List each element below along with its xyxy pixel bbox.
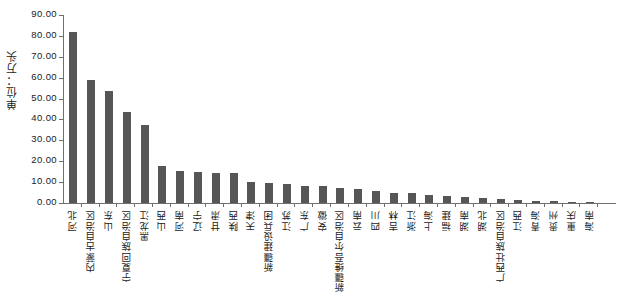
bar[interactable] bbox=[69, 32, 77, 203]
x-axis-tick-mark bbox=[508, 203, 509, 207]
x-axis-line bbox=[63, 203, 616, 204]
y-axis-tick-label: 30.00 bbox=[31, 133, 57, 144]
x-axis-tick-mark bbox=[455, 203, 456, 207]
bar[interactable] bbox=[550, 201, 558, 203]
bar[interactable] bbox=[532, 201, 540, 203]
plot-area: 0.0010.0020.0030.0040.0050.0060.0070.008… bbox=[63, 15, 615, 203]
y-axis-tick-mark bbox=[59, 15, 63, 16]
bar[interactable] bbox=[461, 197, 469, 203]
x-axis-tick-mark bbox=[152, 203, 153, 207]
y-axis-tick-label: 70.00 bbox=[31, 50, 57, 61]
x-axis-category-label: 重庆 bbox=[567, 210, 577, 231]
x-axis-category-label: 陕西 bbox=[229, 210, 239, 231]
bar[interactable] bbox=[301, 186, 309, 203]
y-axis-tick-mark bbox=[59, 119, 63, 120]
bar[interactable] bbox=[497, 199, 505, 203]
y-axis-tick-mark bbox=[59, 57, 63, 58]
x-axis-category-label: 河南 bbox=[175, 210, 185, 231]
x-axis-category-label: 湖北 bbox=[478, 210, 488, 231]
x-axis-category-label: 山西 bbox=[157, 210, 167, 231]
x-axis-tick-mark bbox=[205, 203, 206, 207]
x-axis-tick-mark bbox=[116, 203, 117, 207]
bar[interactable] bbox=[194, 172, 202, 203]
x-axis-category-label: 安徽 bbox=[318, 210, 328, 231]
y-axis-tick-mark bbox=[59, 203, 63, 204]
x-axis-category-label: 黑龙江 bbox=[140, 210, 150, 241]
y-axis-tick-mark bbox=[59, 161, 63, 162]
y-axis-tick-mark bbox=[59, 140, 63, 141]
x-axis-tick-mark bbox=[99, 203, 100, 207]
bar[interactable] bbox=[443, 196, 451, 203]
x-axis-category-label: 新疆建设兵团 bbox=[264, 210, 274, 272]
x-axis-category-label: 四川 bbox=[371, 210, 381, 231]
bar[interactable] bbox=[123, 112, 131, 203]
x-axis-category-label: 云南 bbox=[353, 210, 363, 231]
bar[interactable] bbox=[230, 173, 238, 203]
x-axis-category-label: 江苏 bbox=[282, 210, 292, 231]
x-axis-category-label: 新疆维吾尔自治区 bbox=[335, 210, 345, 292]
x-axis-category-label: 辽宁 bbox=[193, 210, 203, 231]
x-axis-tick-mark bbox=[259, 203, 260, 207]
x-axis-category-label: 江西 bbox=[513, 210, 523, 231]
bar[interactable] bbox=[479, 198, 487, 203]
x-axis-category-label: 山东 bbox=[104, 210, 114, 231]
bar[interactable] bbox=[568, 202, 576, 203]
bar[interactable] bbox=[158, 166, 166, 203]
bar[interactable] bbox=[283, 184, 291, 203]
x-axis-tick-mark bbox=[170, 203, 171, 207]
bar[interactable] bbox=[319, 186, 327, 203]
y-axis-tick-label: 90.00 bbox=[31, 8, 57, 19]
y-axis-tick-mark bbox=[59, 99, 63, 100]
x-axis-category-label: 天津 bbox=[246, 210, 256, 231]
x-axis-tick-mark bbox=[312, 203, 313, 207]
x-axis-category-label: 贵州 bbox=[549, 210, 559, 231]
x-axis-category-label: 上海 bbox=[424, 210, 434, 231]
x-axis-tick-mark bbox=[419, 203, 420, 207]
x-axis-category-label: 吉林 bbox=[389, 210, 399, 231]
x-axis-tick-mark bbox=[597, 203, 598, 207]
y-axis-tick-label: 80.00 bbox=[31, 29, 57, 40]
bar[interactable] bbox=[514, 200, 522, 203]
x-axis-tick-mark bbox=[241, 203, 242, 207]
y-axis-tick-label: 40.00 bbox=[31, 112, 57, 123]
y-axis-tick-label: 60.00 bbox=[31, 71, 57, 82]
bar[interactable] bbox=[105, 91, 113, 203]
x-axis-tick-mark bbox=[348, 203, 349, 207]
bar[interactable] bbox=[87, 80, 95, 203]
x-axis-category-label: 内蒙古自治区 bbox=[86, 210, 96, 272]
x-axis-tick-mark bbox=[544, 203, 545, 207]
x-axis-tick-mark bbox=[294, 203, 295, 207]
bar[interactable] bbox=[586, 202, 594, 203]
x-axis-tick-mark bbox=[223, 203, 224, 207]
x-axis-tick-mark bbox=[134, 203, 135, 207]
bar[interactable] bbox=[265, 183, 273, 203]
x-axis-category-label: 甘肃 bbox=[211, 210, 221, 231]
x-axis-tick-mark bbox=[437, 203, 438, 207]
x-axis-category-label: 广西壮族自治区 bbox=[496, 210, 506, 282]
bar[interactable] bbox=[390, 193, 398, 203]
bar[interactable] bbox=[408, 193, 416, 203]
bar[interactable] bbox=[247, 182, 255, 203]
x-axis-category-label: 浙江 bbox=[407, 210, 417, 231]
y-axis-title: 单位：万头 bbox=[4, 50, 22, 110]
bar[interactable] bbox=[372, 191, 380, 203]
x-axis-tick-mark bbox=[401, 203, 402, 207]
bar[interactable] bbox=[336, 188, 344, 203]
x-axis-tick-mark bbox=[473, 203, 474, 207]
x-axis-tick-mark bbox=[188, 203, 189, 207]
bar[interactable] bbox=[212, 173, 220, 203]
chart-page: 单位：万头 0.0010.0020.0030.0040.0050.0060.00… bbox=[0, 0, 622, 304]
y-axis-tick-mark bbox=[59, 36, 63, 37]
bar[interactable] bbox=[141, 125, 149, 203]
x-axis-tick-mark bbox=[330, 203, 331, 207]
x-axis-category-label: 宁夏回族自治区 bbox=[122, 210, 132, 282]
y-axis-tick-mark bbox=[59, 182, 63, 183]
y-axis-tick-label: 20.00 bbox=[31, 154, 57, 165]
x-axis-category-label: 河北 bbox=[68, 210, 78, 231]
bar[interactable] bbox=[176, 171, 184, 203]
y-axis-tick-label: 10.00 bbox=[31, 175, 57, 186]
bar[interactable] bbox=[354, 189, 362, 203]
y-axis-tick-label: 50.00 bbox=[31, 92, 57, 103]
bar[interactable] bbox=[425, 195, 433, 203]
x-axis-tick-mark bbox=[490, 203, 491, 207]
